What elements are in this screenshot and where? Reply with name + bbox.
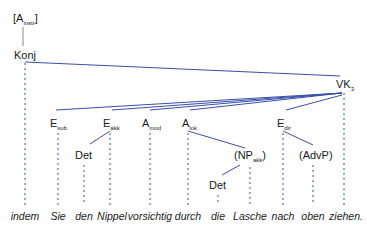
dependent-e-dir: Edir [277, 117, 291, 134]
det-node-2: Det [209, 179, 226, 191]
tree-edges [0, 0, 367, 230]
dep-sub: mod [149, 125, 161, 131]
word: durch [175, 210, 201, 222]
dependent-a-mod: Amod [142, 117, 161, 134]
word: vorsichtig [128, 210, 172, 222]
dependent-e-sub: Esub [50, 117, 67, 134]
dep-sub: sub [57, 125, 67, 131]
dependent-a-lok: Alok [182, 117, 197, 134]
word: die [211, 210, 225, 222]
dependent-e-akk: Eakk [103, 117, 120, 134]
word: Sie [50, 210, 65, 222]
dep-sub: lok [189, 125, 197, 131]
np-label: (NP [234, 149, 253, 161]
word: nach [272, 210, 295, 222]
word: Nippel [97, 210, 127, 222]
np-close: ) [262, 149, 266, 161]
dep-sub: dir [284, 125, 291, 131]
advp-node: (AdvP) [299, 149, 333, 161]
np-node: (NPakk) [234, 149, 266, 166]
np-sub: akk [253, 157, 262, 163]
root-sub: instr [23, 20, 34, 26]
det-node-1: Det [75, 149, 92, 161]
root-node: [Ainstr] [13, 12, 38, 29]
konj-node: Konj [14, 49, 36, 61]
word: oben [301, 210, 324, 222]
dep-sub: akk [110, 125, 119, 131]
word: ziehen. [329, 210, 363, 222]
word: indem [11, 210, 40, 222]
word: den [75, 210, 93, 222]
verb-label: VK [336, 78, 351, 90]
konj-label: Konj [14, 49, 36, 61]
verb-sub: 3 [351, 86, 354, 92]
word: Lasche [233, 210, 267, 222]
verb-node: VK3 [336, 78, 354, 95]
